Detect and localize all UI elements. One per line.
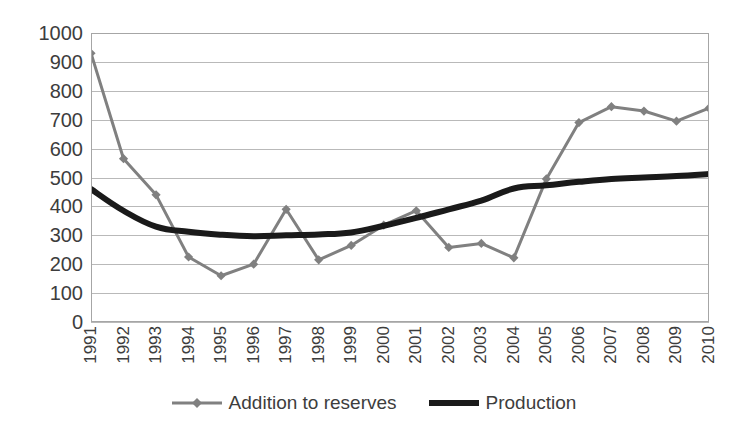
y-tick-label: 200 — [0, 254, 83, 274]
x-tick-label: 1993 — [146, 326, 166, 364]
x-tick-label: 2005 — [536, 326, 556, 364]
x-tick-label: 1994 — [179, 326, 199, 364]
series-line — [91, 174, 709, 236]
y-tick-label: 300 — [0, 225, 83, 245]
legend-line-marker-icon — [170, 395, 224, 411]
y-tick-label: 100 — [0, 283, 83, 303]
data-point-marker — [704, 104, 709, 113]
data-point-marker — [477, 239, 486, 248]
series-2 — [91, 174, 709, 236]
series-layer — [91, 33, 709, 322]
x-tick-label: 2001 — [406, 326, 426, 364]
x-tick-label: 2006 — [569, 326, 589, 364]
x-axis: 1991199219931994199519961997199819992000… — [91, 326, 709, 388]
legend-line-icon — [427, 395, 481, 411]
x-tick-label: 1997 — [276, 326, 296, 364]
x-tick-label: 2003 — [471, 326, 491, 364]
x-tick-label: 1996 — [244, 326, 264, 364]
x-tick-label: 2004 — [504, 326, 524, 364]
series-line — [91, 53, 709, 276]
x-tick-label: 1998 — [309, 326, 329, 364]
x-tick-label: 2009 — [666, 326, 686, 364]
series-1 — [91, 49, 709, 281]
y-tick-label: 600 — [0, 139, 83, 159]
gridline — [91, 322, 709, 323]
plot-area — [91, 33, 709, 322]
x-tick-label: 2000 — [374, 326, 394, 364]
chart-legend: Addition to reservesProduction — [0, 392, 746, 414]
legend-item[interactable]: Addition to reserves — [170, 392, 397, 414]
legend-label: Addition to reserves — [229, 392, 397, 414]
x-tick-label: 2010 — [699, 326, 719, 364]
x-tick-label: 1999 — [341, 326, 361, 364]
legend-label: Production — [486, 392, 577, 414]
x-tick-label: 1995 — [211, 326, 231, 364]
x-tick-label: 1992 — [114, 326, 134, 364]
y-tick-label: 400 — [0, 196, 83, 216]
data-point-marker — [639, 106, 648, 115]
y-tick-label: 800 — [0, 81, 83, 101]
x-tick-label: 2008 — [634, 326, 654, 364]
y-tick-label: 500 — [0, 168, 83, 188]
y-axis: 10009008007006005004003002001000 — [0, 0, 83, 360]
x-tick-label: 2002 — [439, 326, 459, 364]
x-tick-label: 1991 — [81, 326, 101, 364]
y-tick-label: 900 — [0, 52, 83, 72]
y-tick-label: 700 — [0, 110, 83, 130]
chart-container: 10009008007006005004003002001000 1991199… — [0, 0, 746, 434]
legend-item[interactable]: Production — [427, 392, 577, 414]
x-tick-label: 2007 — [601, 326, 621, 364]
y-tick-label: 0 — [0, 312, 83, 332]
y-tick-label: 1000 — [0, 23, 83, 43]
data-point-marker — [672, 117, 681, 126]
data-point-marker — [509, 253, 518, 262]
